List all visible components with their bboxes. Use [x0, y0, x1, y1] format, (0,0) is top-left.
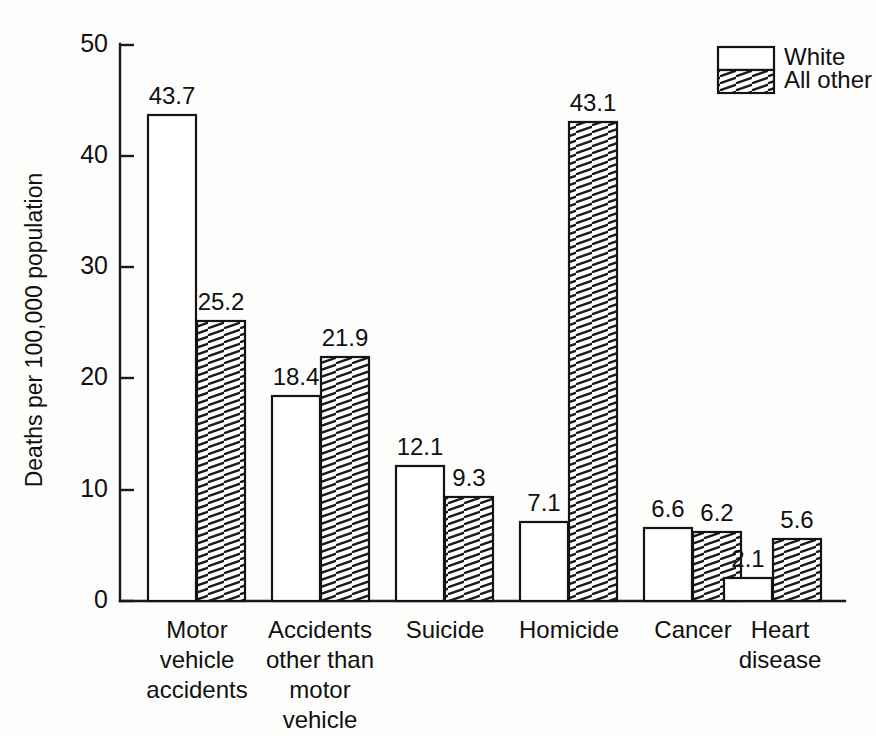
category-label-accidents-other-than-motor-vehicle: Accidents other than motor vehicle — [266, 616, 374, 733]
y-axis-title: Deaths per 100,000 population — [21, 173, 47, 488]
y-tick-label-30: 30 — [80, 251, 108, 279]
grouped-bar-chart: 50 40 30 20 10 0 Deaths per 100,000 popu… — [0, 0, 876, 736]
bar-white-homicide — [520, 522, 568, 601]
category-line: Suicide — [406, 616, 485, 643]
value-label-allother-homicide: 43.1 — [570, 89, 617, 116]
category-label-heart-disease: Heart disease — [739, 616, 822, 673]
category-line: Cancer — [654, 616, 731, 643]
y-axis-tick-labels: 50 40 30 20 10 0 — [80, 29, 108, 613]
category-line: vehicle — [160, 646, 235, 673]
bar-allother-motor-vehicle-accidents — [197, 321, 245, 601]
value-label-white-cancer: 6.6 — [651, 495, 684, 522]
legend-label-all-other: All other — [784, 66, 872, 93]
category-label-suicide: Suicide — [406, 616, 485, 643]
bar-allother-homicide — [569, 122, 617, 601]
y-tick-label-20: 20 — [80, 362, 108, 390]
value-label-allother-motor-vehicle-accidents: 25.2 — [198, 288, 245, 315]
y-tick-label-0: 0 — [94, 585, 108, 613]
bar-group-accidents-other-than-motor-vehicle: 18.4 21.9 — [272, 324, 369, 601]
category-label-homicide: Homicide — [519, 616, 619, 643]
bar-white-heart-disease — [724, 578, 772, 601]
category-line: disease — [739, 646, 822, 673]
category-line: Heart — [751, 616, 810, 643]
category-line: vehicle — [283, 706, 358, 733]
y-tick-label-10: 10 — [80, 474, 108, 502]
x-axis-category-labels: Motor vehicle accidents Accidents other … — [146, 616, 821, 733]
category-line: Motor — [166, 616, 227, 643]
bar-group-suicide: 12.1 9.3 — [396, 433, 493, 601]
y-axis-ticks — [120, 45, 134, 601]
value-label-allother-accidents-other: 21.9 — [322, 324, 369, 351]
category-label-cancer: Cancer — [654, 616, 731, 643]
bar-group-homicide: 7.1 43.1 — [520, 89, 617, 601]
category-line: accidents — [146, 676, 247, 703]
bar-group-heart-disease: 2.1 5.6 — [724, 506, 821, 601]
category-line: Accidents — [268, 616, 372, 643]
category-line: Homicide — [519, 616, 619, 643]
value-label-white-homicide: 7.1 — [527, 489, 560, 516]
legend-swatch-all-other — [718, 70, 774, 93]
value-label-white-suicide: 12.1 — [397, 433, 444, 460]
legend-swatch-white — [718, 47, 774, 70]
chart-page: 50 40 30 20 10 0 Deaths per 100,000 popu… — [0, 0, 876, 736]
bar-white-accidents-other — [272, 396, 320, 601]
value-label-allother-suicide: 9.3 — [452, 464, 485, 491]
category-line: other than — [266, 646, 374, 673]
bar-group-motor-vehicle-accidents: 43.7 25.2 — [148, 82, 245, 601]
value-label-allother-heart-disease: 5.6 — [780, 506, 813, 533]
value-label-allother-cancer: 6.2 — [700, 499, 733, 526]
category-line: motor — [289, 676, 350, 703]
value-label-white-heart-disease: 2.1 — [731, 545, 764, 572]
bar-white-cancer — [644, 528, 692, 601]
chart-legend: White All other — [718, 43, 872, 93]
bar-white-motor-vehicle-accidents — [148, 115, 196, 601]
bar-allother-accidents-other — [321, 357, 369, 601]
y-tick-label-50: 50 — [80, 29, 108, 57]
bar-white-suicide — [396, 466, 444, 601]
value-label-white-motor-vehicle-accidents: 43.7 — [149, 82, 196, 109]
value-label-white-accidents-other: 18.4 — [273, 363, 320, 390]
bar-allother-heart-disease — [773, 539, 821, 601]
category-label-motor-vehicle-accidents: Motor vehicle accidents — [146, 616, 247, 703]
y-tick-label-40: 40 — [80, 140, 108, 168]
bar-allother-suicide — [445, 497, 493, 601]
